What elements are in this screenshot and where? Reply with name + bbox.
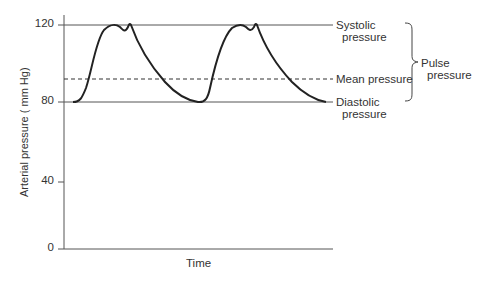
diastolic-label-line2: pressure [336,108,387,120]
pulse-pressure-brace [405,23,418,101]
tick-label-0: 0 [24,241,54,253]
diastolic-label-line1: Diastolic [336,96,387,108]
pressure-chart [0,0,494,284]
pulse-label-line2: pressure [421,69,472,81]
tick-label-120: 120 [24,17,54,29]
diastolic-label: Diastolic pressure [336,96,387,120]
y-axis-label: Arterial pressure ( mm Hg) [18,67,30,197]
systolic-label: Systolic pressure [336,19,387,43]
x-axis-label: Time [186,257,211,269]
systolic-label-line2: pressure [336,31,387,43]
pressure-waveform [73,24,326,102]
systolic-label-line1: Systolic [336,19,387,31]
pulse-label-line1: Pulse [421,57,472,69]
mean-label: Mean pressure [336,73,413,85]
pulse-pressure-label: Pulse pressure [421,57,472,81]
